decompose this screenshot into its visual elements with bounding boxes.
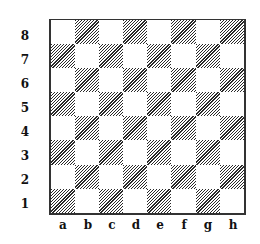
- square-d6: [123, 68, 147, 92]
- square-b6: [75, 68, 99, 92]
- square-f2: [171, 165, 195, 189]
- square-d7: [123, 44, 147, 68]
- rank-label-3: 3: [18, 149, 32, 163]
- square-g4: [196, 116, 220, 140]
- square-b1: [75, 189, 99, 213]
- square-d1: [123, 189, 147, 213]
- square-f1: [171, 189, 195, 213]
- square-f5: [171, 92, 195, 116]
- square-a2: [51, 165, 75, 189]
- rank-label-8: 8: [18, 29, 32, 43]
- square-g7: [196, 44, 220, 68]
- square-h7: [220, 44, 244, 68]
- square-h2: [220, 165, 244, 189]
- rank-label-2: 2: [18, 173, 32, 187]
- square-c4: [99, 116, 123, 140]
- file-label-c: c: [104, 218, 120, 232]
- square-a1: [51, 189, 75, 213]
- square-f4: [171, 116, 195, 140]
- square-g1: [196, 189, 220, 213]
- square-h5: [220, 92, 244, 116]
- file-label-g: g: [200, 218, 216, 232]
- square-a3: [51, 140, 75, 164]
- square-c1: [99, 189, 123, 213]
- square-d8: [123, 20, 147, 44]
- square-c2: [99, 165, 123, 189]
- square-f7: [171, 44, 195, 68]
- square-f6: [171, 68, 195, 92]
- square-b3: [75, 140, 99, 164]
- square-c3: [99, 140, 123, 164]
- square-g3: [196, 140, 220, 164]
- square-e6: [147, 68, 171, 92]
- rank-label-6: 6: [18, 77, 32, 91]
- square-g2: [196, 165, 220, 189]
- square-d4: [123, 116, 147, 140]
- chessboard: [49, 19, 246, 215]
- square-b2: [75, 165, 99, 189]
- square-c7: [99, 44, 123, 68]
- square-h1: [220, 189, 244, 213]
- file-label-f: f: [176, 218, 192, 232]
- rank-label-4: 4: [18, 125, 32, 139]
- square-e3: [147, 140, 171, 164]
- square-g6: [196, 68, 220, 92]
- square-g5: [196, 92, 220, 116]
- square-c6: [99, 68, 123, 92]
- square-h6: [220, 68, 244, 92]
- square-d5: [123, 92, 147, 116]
- square-f8: [171, 20, 195, 44]
- rank-label-5: 5: [18, 101, 32, 115]
- rank-label-1: 1: [18, 197, 32, 211]
- file-label-b: b: [80, 218, 96, 232]
- square-e4: [147, 116, 171, 140]
- square-b8: [75, 20, 99, 44]
- square-e7: [147, 44, 171, 68]
- square-a5: [51, 92, 75, 116]
- square-e1: [147, 189, 171, 213]
- square-c8: [99, 20, 123, 44]
- file-label-d: d: [128, 218, 144, 232]
- square-h3: [220, 140, 244, 164]
- square-b4: [75, 116, 99, 140]
- square-e5: [147, 92, 171, 116]
- square-d2: [123, 165, 147, 189]
- rank-label-7: 7: [18, 53, 32, 67]
- square-e2: [147, 165, 171, 189]
- square-a7: [51, 44, 75, 68]
- square-c5: [99, 92, 123, 116]
- square-h4: [220, 116, 244, 140]
- square-d3: [123, 140, 147, 164]
- file-label-a: a: [55, 218, 71, 232]
- file-label-e: e: [152, 218, 168, 232]
- square-a8: [51, 20, 75, 44]
- square-b7: [75, 44, 99, 68]
- square-b5: [75, 92, 99, 116]
- square-h8: [220, 20, 244, 44]
- square-f3: [171, 140, 195, 164]
- file-label-h: h: [225, 218, 241, 232]
- square-g8: [196, 20, 220, 44]
- square-e8: [147, 20, 171, 44]
- square-a6: [51, 68, 75, 92]
- square-a4: [51, 116, 75, 140]
